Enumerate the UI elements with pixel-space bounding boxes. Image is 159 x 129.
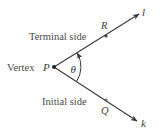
vertex-label: Vertex	[7, 62, 35, 73]
point-r	[104, 34, 107, 37]
angle-theta-label: θ	[71, 63, 77, 75]
initial-side-ray	[54, 67, 137, 121]
point-r-label: R	[100, 20, 108, 31]
terminal-side-label: Terminal side	[29, 31, 87, 42]
point-q	[104, 98, 107, 101]
angle-diagram: Terminal side Initial side Vertex P R Q …	[0, 0, 159, 129]
vertex-point	[52, 65, 56, 69]
ray-l-label: l	[142, 6, 145, 18]
vertex-point-label: P	[42, 61, 50, 73]
initial-side-label: Initial side	[42, 96, 87, 107]
ray-k-label: k	[141, 117, 147, 129]
point-q-label: Q	[101, 105, 109, 116]
angle-arc	[77, 54, 81, 82]
